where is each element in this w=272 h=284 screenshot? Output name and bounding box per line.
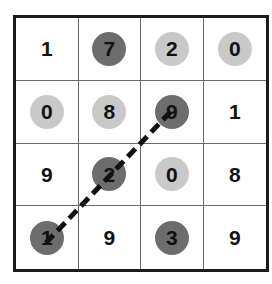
dark-circle-marker: 3: [155, 221, 189, 255]
cell-number: 2: [166, 38, 178, 59]
grid-cell[interactable]: 2: [141, 18, 204, 81]
cell-number-plain: 1: [30, 32, 64, 66]
cell-number: 9: [166, 101, 178, 122]
number-grid-board: 1720089192081939: [13, 15, 269, 272]
cell-number: 0: [41, 101, 53, 122]
cell-number: 9: [229, 227, 241, 248]
grid-cell[interactable]: 2: [79, 144, 142, 207]
grid-cell[interactable]: 9: [141, 81, 204, 144]
cell-number: 8: [229, 164, 241, 185]
dark-circle-marker: 2: [92, 157, 126, 191]
cell-number: 9: [41, 164, 53, 185]
grid-cell[interactable]: 8: [204, 144, 267, 207]
grid-cell[interactable]: 7: [79, 18, 142, 81]
cell-number: 9: [103, 227, 115, 248]
cell-number: 1: [41, 227, 53, 248]
cell-number-plain: 8: [218, 157, 252, 191]
grid-cell[interactable]: 1: [204, 81, 267, 144]
cell-number: 1: [41, 38, 53, 59]
cell-number: 0: [166, 164, 178, 185]
cell-number: 8: [103, 101, 115, 122]
cell-number-plain: 9: [92, 221, 126, 255]
grid-cell[interactable]: 9: [204, 206, 267, 269]
cell-number: 0: [229, 38, 241, 59]
cell-number: 3: [166, 227, 178, 248]
grid-cell[interactable]: 9: [16, 144, 79, 207]
cell-number: 7: [103, 38, 115, 59]
cell-number: 1: [229, 101, 241, 122]
cell-number: 2: [103, 164, 115, 185]
light-circle-marker: 8: [92, 95, 126, 129]
grid-cell[interactable]: 0: [16, 81, 79, 144]
grid-cell[interactable]: 0: [204, 18, 267, 81]
light-circle-marker: 0: [30, 95, 64, 129]
grid-cell[interactable]: 1: [16, 206, 79, 269]
cell-number-plain: 9: [218, 221, 252, 255]
light-circle-marker: 0: [155, 157, 189, 191]
cell-number-plain: 9: [30, 157, 64, 191]
grid-cell[interactable]: 0: [141, 144, 204, 207]
grid-cell[interactable]: 8: [79, 81, 142, 144]
dark-circle-marker: 1: [30, 221, 64, 255]
dark-circle-marker: 9: [155, 95, 189, 129]
grid-cell[interactable]: 3: [141, 206, 204, 269]
dark-circle-marker: 7: [92, 32, 126, 66]
cell-number-plain: 1: [218, 95, 252, 129]
grid-cell[interactable]: 1: [16, 18, 79, 81]
light-circle-marker: 0: [218, 32, 252, 66]
grid-cell[interactable]: 9: [79, 206, 142, 269]
light-circle-marker: 2: [155, 32, 189, 66]
